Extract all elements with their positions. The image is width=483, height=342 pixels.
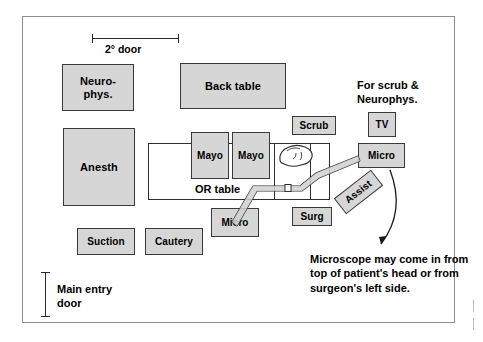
scrub-position: Scrub: [292, 116, 336, 135]
tv-purpose-note: For scrub &Neurophys.: [357, 78, 419, 107]
micro-lower-label: Micro: [221, 217, 248, 228]
microscope-lower: Micro: [211, 208, 259, 237]
main-entry-door-label: Main entrydoor: [57, 282, 112, 311]
or-layout-diagram: 2° door Neuro-phys. Back table Anesth Su…: [0, 0, 483, 342]
scrub-label: Scrub: [300, 120, 329, 131]
mayo-left-label: Mayo: [197, 150, 223, 161]
mayo-stand-left: Mayo: [191, 132, 229, 179]
neurophys-cart: Neuro-phys.: [62, 64, 134, 111]
microscope-right: Micro: [358, 143, 405, 168]
back-table: Back table: [180, 63, 286, 109]
or-table-divider-left: [274, 143, 275, 200]
secondary-door-dimension-bar: [92, 38, 179, 39]
edge-mark-upper: [473, 300, 474, 312]
suction-label: Suction: [87, 236, 124, 247]
back-table-label: Back table: [205, 80, 261, 92]
microscope-caption: Microscope may come in fromtop of patien…: [310, 252, 468, 295]
anesthesia-station: Anesth: [63, 128, 135, 206]
cautery-label: Cautery: [155, 236, 193, 247]
micro-right-label: Micro: [368, 150, 395, 161]
anesth-label: Anesth: [80, 161, 118, 173]
main-entry-door-dimension-bar: [45, 272, 46, 317]
cautery-unit: Cautery: [145, 228, 203, 255]
edge-mark-lower: [473, 318, 474, 330]
or-table-label: OR table: [195, 183, 240, 195]
surgeon-position: Surg: [292, 207, 332, 226]
mayo-stand-right: Mayo: [232, 132, 270, 179]
tv-monitor: TV: [368, 112, 396, 137]
secondary-door-label: 2° door: [105, 43, 141, 55]
neurophys-label: Neuro-phys.: [80, 75, 116, 100]
mayo-right-label: Mayo: [238, 150, 264, 161]
surg-label: Surg: [300, 211, 323, 222]
tv-label: TV: [376, 119, 389, 130]
suction-unit: Suction: [77, 228, 135, 255]
or-table-divider-right: [310, 143, 311, 200]
